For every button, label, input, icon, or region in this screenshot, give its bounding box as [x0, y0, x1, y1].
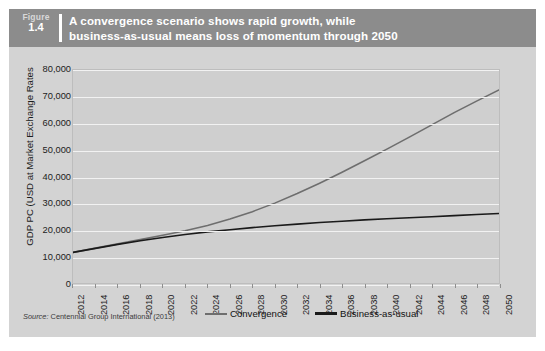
figure-title-line-1: A convergence scenario shows rapid growt…: [69, 13, 524, 28]
x-axis-tick-mark: [162, 284, 163, 288]
x-axis-tick-mark: [342, 284, 343, 288]
legend-color-swatch: [205, 313, 227, 315]
source-label: Source:: [23, 312, 48, 321]
x-axis-tick-mark: [500, 284, 501, 288]
x-axis-tick-mark: [477, 284, 478, 288]
y-axis-tick-label: 50,000: [43, 145, 71, 155]
y-axis-tick-label: 30,000: [43, 198, 71, 208]
x-axis-tick-label: 2032: [301, 295, 311, 315]
figure-card: Figure 1.4 A convergence scenario shows …: [9, 9, 536, 337]
y-axis-tick-label: 20,000: [43, 225, 71, 235]
header-divider-rule: [59, 14, 62, 42]
y-axis-tick-label: 10,000: [43, 252, 71, 262]
x-axis-tick-mark: [140, 284, 141, 288]
x-axis-tick-mark: [432, 284, 433, 288]
y-axis-tick-label: 40,000: [43, 172, 71, 182]
x-axis-tick-label: 2048: [481, 295, 491, 315]
x-axis-tick-mark: [252, 284, 253, 288]
x-axis-tick-mark: [72, 284, 73, 288]
gridline: [73, 124, 499, 125]
figure-number-block: Figure 1.4: [17, 13, 55, 43]
plot-area: [72, 69, 500, 284]
legend-entry: Business-as-usual: [315, 308, 418, 319]
x-axis-tick-mark: [207, 284, 208, 288]
series-line: [73, 90, 499, 252]
x-axis-tick-mark: [230, 284, 231, 288]
x-axis-tick-mark: [455, 284, 456, 288]
series-line: [73, 214, 499, 253]
y-axis-tick-label: 70,000: [43, 91, 71, 101]
x-axis-tick-mark: [117, 284, 118, 288]
gridline: [73, 97, 499, 98]
gridline: [73, 204, 499, 205]
gridline: [73, 70, 499, 71]
x-axis-tick-mark: [387, 284, 388, 288]
x-axis-tick-mark: [95, 284, 96, 288]
legend-color-swatch: [315, 312, 337, 315]
x-axis-tick-marks: [72, 284, 500, 288]
y-axis-tick-labels: 010,00020,00030,00040,00050,00060,00070,…: [23, 47, 71, 297]
y-axis-tick-label: 0: [66, 279, 71, 289]
gridline: [73, 231, 499, 232]
legend-label: Convergence: [230, 308, 287, 319]
figure-header-bar: Figure 1.4 A convergence scenario shows …: [9, 9, 536, 47]
gridline: [73, 258, 499, 259]
y-axis-tick-label: 80,000: [43, 64, 71, 74]
x-axis-tick-mark: [365, 284, 366, 288]
chart-lines: [73, 70, 499, 283]
source-note: Source: Centennial Group International (…: [23, 312, 175, 321]
figure-number: 1.4: [17, 22, 55, 34]
gridline: [73, 178, 499, 179]
x-axis-tick-mark: [297, 284, 298, 288]
legend-entry: Convergence: [205, 308, 287, 319]
figure-title-line-2: business-as-usual means loss of momentum…: [69, 28, 524, 43]
source-text: Centennial Group International (2013): [51, 312, 175, 321]
x-axis-tick-mark: [410, 284, 411, 288]
x-axis-tick-label: 2044: [436, 295, 446, 315]
chart-region: GDP PC (USD at Market Exchange Rates 010…: [9, 47, 536, 337]
x-axis-tick-label: 2022: [189, 295, 199, 315]
x-axis-tick-label: 2050: [504, 295, 514, 315]
y-axis-tick-label: 60,000: [43, 118, 71, 128]
x-axis-tick-mark: [320, 284, 321, 288]
x-axis-tick-mark: [275, 284, 276, 288]
x-axis-tick-mark: [185, 284, 186, 288]
figure-title: A convergence scenario shows rapid growt…: [69, 13, 524, 43]
legend-label: Business-as-usual: [340, 308, 418, 319]
gridline: [73, 151, 499, 152]
x-axis-tick-label: 2046: [459, 295, 469, 315]
